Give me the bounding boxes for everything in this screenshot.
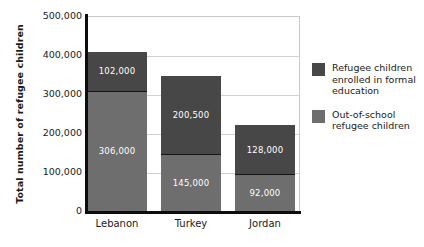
bar-segment-jordan-out-of-school[interactable]: 92,000 <box>235 175 295 211</box>
bar-value-lebanon-out-of-school: 306,000 <box>99 146 136 156</box>
bar-group-turkey[interactable]: 200,500 145,000 <box>161 76 221 211</box>
chart-legend: Refugee children enrolled in formal educ… <box>312 62 424 144</box>
x-tick-label-lebanon: Lebanon <box>77 218 157 229</box>
bar-segment-turkey-out-of-school[interactable]: 145,000 <box>161 155 221 212</box>
y-axis-line <box>85 14 88 213</box>
legend-swatch-enrolled <box>312 63 325 76</box>
y-tick-200000: 200,000 <box>12 128 82 138</box>
bar-segment-lebanon-enrolled[interactable]: 102,000 <box>87 52 147 92</box>
y-tick-500000: 500,000 <box>12 11 82 21</box>
x-axis-line <box>85 211 301 214</box>
legend-swatch-out-of-school <box>312 110 325 123</box>
y-tick-0: 0 <box>12 206 82 216</box>
legend-label-enrolled: Refugee children enrolled in formal educ… <box>332 62 424 97</box>
bar-value-lebanon-enrolled: 102,000 <box>99 66 136 76</box>
bar-segment-lebanon-out-of-school[interactable]: 306,000 <box>87 92 147 211</box>
plot-area: 102,000 306,000 200,500 145,000 128,000 … <box>87 16 300 211</box>
bar-value-turkey-out-of-school: 145,000 <box>173 178 210 188</box>
bar-value-jordan-enrolled: 128,000 <box>247 145 284 155</box>
bar-group-lebanon[interactable]: 102,000 306,000 <box>87 52 147 211</box>
x-tick-label-jordan: Jordan <box>225 218 305 229</box>
legend-item-out-of-school[interactable]: Out-of-school refugee children <box>312 109 424 132</box>
y-tick-300000: 300,000 <box>12 89 82 99</box>
legend-label-out-of-school: Out-of-school refugee children <box>332 109 424 132</box>
bar-segment-jordan-enrolled[interactable]: 128,000 <box>235 125 295 175</box>
bar-value-jordan-out-of-school: 92,000 <box>250 188 281 198</box>
y-tick-400000: 400,000 <box>12 50 82 60</box>
bar-group-jordan[interactable]: 128,000 92,000 <box>235 125 295 211</box>
bar-value-turkey-enrolled: 200,500 <box>173 110 210 120</box>
bar-segment-turkey-enrolled[interactable]: 200,500 <box>161 76 221 154</box>
legend-item-enrolled[interactable]: Refugee children enrolled in formal educ… <box>312 62 424 97</box>
stacked-bar-chart: Total number of refugee children 500,000… <box>0 0 424 247</box>
x-tick-label-turkey: Turkey <box>151 218 231 229</box>
y-axis-tick-labels: 500,000 400,000 300,000 200,000 100,000 … <box>8 0 82 247</box>
y-tick-100000: 100,000 <box>12 167 82 177</box>
